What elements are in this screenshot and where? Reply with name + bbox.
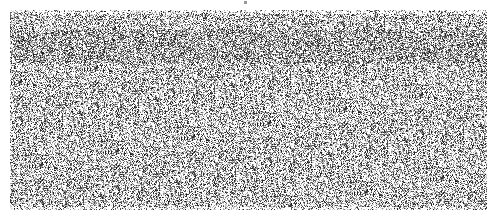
noise-canvas: [10, 10, 487, 210]
top-marker: [244, 1, 247, 4]
noise-texture-field: [10, 10, 487, 210]
